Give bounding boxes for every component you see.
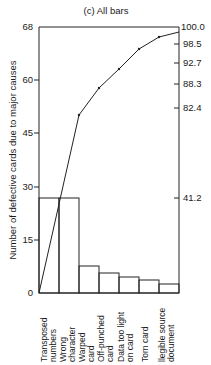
bar-torn-card (139, 280, 159, 293)
y-tick-label: 68 (22, 21, 33, 32)
category-label: Torn card (140, 326, 150, 362)
category-label: character (67, 326, 77, 362)
y-tick-label: 45 (22, 127, 33, 138)
y-tick-label: 60 (22, 74, 33, 85)
category-label: card (86, 345, 96, 362)
y2-tick-label: 100.0 (181, 21, 205, 32)
y2-tick-label: 41.2 (183, 192, 202, 203)
category-label: document (166, 324, 176, 362)
category-label: numbers (48, 329, 58, 362)
cumulative-points (78, 36, 160, 116)
x-category-labels: Transposed numbers Wrong character Warpe… (39, 307, 176, 362)
bar-warped-card (79, 266, 99, 293)
cumulative-line (39, 32, 179, 293)
bar-off-punched-card (99, 273, 119, 293)
bar-illegible-source (159, 284, 179, 293)
category-label: on card (125, 333, 135, 362)
y2-tick-label: 98.5 (183, 38, 202, 49)
y-tick-label: 30 (22, 181, 33, 192)
y-tick-label: 0 (28, 287, 33, 298)
category-label: card (105, 345, 115, 362)
y2-tick-label: 88.3 (183, 78, 202, 89)
left-axis-ticks (34, 80, 39, 240)
bar-wrong-character (59, 198, 79, 293)
left-axis-labels: 68 60 45 30 15 0 (22, 21, 33, 298)
pareto-chart: (c) All bars 68 60 45 30 15 0 Number of … (0, 0, 211, 365)
right-axis-labels: 100.0 98.5 92.7 88.3 82.4 41.2 (181, 21, 205, 203)
y-axis-label: Number of defective cards due to major c… (7, 60, 18, 259)
y2-tick-label: 92.7 (183, 57, 202, 68)
bars (39, 198, 179, 293)
y2-tick-label: 82.4 (183, 102, 202, 113)
right-axis-ticks (174, 44, 179, 198)
bar-data-too-light (119, 277, 139, 293)
plot-frame (39, 27, 179, 293)
chart-title: (c) All bars (84, 5, 129, 16)
y-tick-label: 15 (22, 234, 33, 245)
